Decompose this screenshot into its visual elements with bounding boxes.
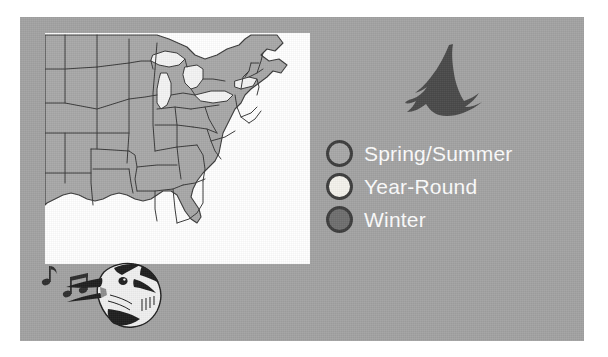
legend-swatch-winter — [326, 206, 353, 233]
singing-bird-svg — [38, 255, 163, 329]
flying-bird-svg — [405, 43, 515, 135]
us-range-map-svg — [45, 33, 310, 264]
bird-eye — [118, 277, 127, 285]
bird-eye-highlight — [123, 279, 126, 281]
bird-lower-beak — [67, 293, 102, 302]
note-stem-1 — [49, 266, 51, 282]
note-beam — [70, 273, 88, 281]
legend-swatch-spring-summer — [326, 140, 353, 167]
legend-item-year-round[interactable]: Year-Round — [326, 170, 576, 203]
legend-item-spring-summer[interactable]: Spring/Summer — [326, 137, 576, 170]
us-range-map — [45, 33, 310, 264]
legend-swatch-year-round — [326, 173, 353, 200]
music-note-icon — [41, 266, 88, 298]
bird-range-map-figure: Spring/Summer Year-Round Winter — [0, 0, 608, 357]
legend-item-winter[interactable]: Winter — [326, 203, 576, 236]
note-flag-1 — [51, 266, 57, 274]
legend-label-spring-summer: Spring/Summer — [364, 143, 512, 164]
legend-label-winter: Winter — [364, 209, 426, 230]
singing-bird-head — [38, 255, 163, 329]
flying-bird-body — [405, 44, 482, 116]
range-legend: Spring/Summer Year-Round Winter — [326, 137, 576, 236]
flying-bird-silhouette — [405, 43, 515, 135]
legend-label-year-round: Year-Round — [364, 176, 477, 197]
figure-panel: Spring/Summer Year-Round Winter — [20, 17, 584, 341]
